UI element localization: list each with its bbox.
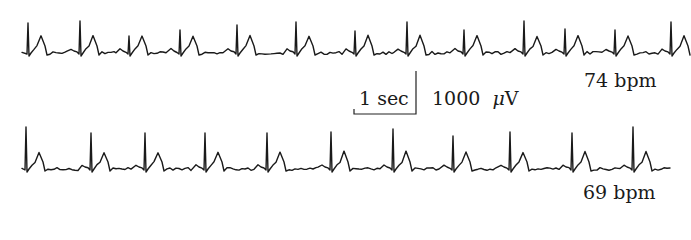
scale-amplitude-label: 1000 μV xyxy=(432,89,519,108)
ecg-trace-top xyxy=(22,21,690,56)
scale-amplitude-value: 1000 xyxy=(432,87,480,109)
heart-rate-bottom-label: 69 bpm xyxy=(583,183,656,202)
scale-time-label: 1 sec xyxy=(359,89,409,108)
scale-amplitude-unit: V xyxy=(505,87,519,109)
micro-symbol: μ xyxy=(492,87,504,109)
heart-rate-top-label: 74 bpm xyxy=(584,71,657,90)
ecg-trace-bottom xyxy=(22,127,670,172)
